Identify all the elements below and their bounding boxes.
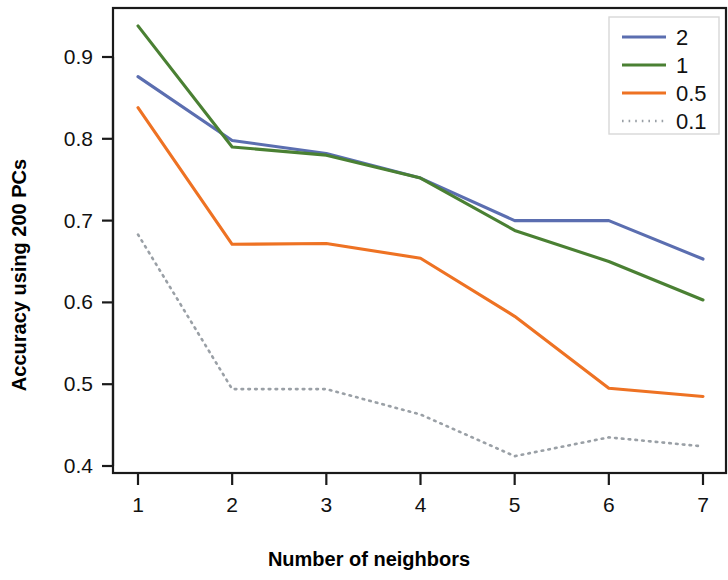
legend-label-0.5: 0.5 (676, 81, 707, 106)
line-chart: 0.40.50.60.70.80.9 1234567 210.50.1 Numb… (0, 0, 728, 580)
x-tick-label-5: 5 (509, 493, 521, 516)
y-tick-label-0.4: 0.4 (64, 454, 94, 477)
legend-label-2: 2 (676, 25, 688, 50)
x-tick-label-1: 1 (132, 493, 144, 516)
x-tick-label-2: 2 (226, 493, 238, 516)
y-tick-label-0.5: 0.5 (64, 372, 93, 395)
y-axis-title: Accuracy using 200 PCs (8, 159, 30, 391)
x-tick-label-3: 3 (320, 493, 332, 516)
y-tick-label-0.6: 0.6 (64, 290, 93, 313)
series-line-0.5 (138, 108, 703, 397)
x-axis-title: Number of neighbors (268, 548, 470, 570)
x-tick-label-6: 6 (603, 493, 615, 516)
y-tick-label-0.7: 0.7 (64, 209, 93, 232)
y-axis: 0.40.50.60.70.80.9 (64, 45, 113, 477)
x-axis: 1234567 (132, 473, 709, 516)
series-line-0.1 (138, 235, 703, 457)
y-tick-label-0.8: 0.8 (64, 127, 93, 150)
y-tick-label-0.9: 0.9 (64, 45, 93, 68)
x-tick-label-7: 7 (697, 493, 709, 516)
legend-label-1: 1 (676, 53, 688, 78)
x-tick-label-4: 4 (415, 493, 427, 516)
chart-container: 0.40.50.60.70.80.9 1234567 210.50.1 Numb… (0, 0, 728, 580)
legend-label-0.1: 0.1 (676, 109, 707, 134)
chart-legend: 210.50.1 (609, 17, 719, 134)
